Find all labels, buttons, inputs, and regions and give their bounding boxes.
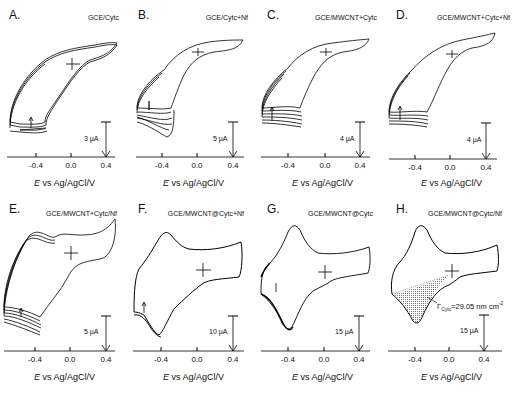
scale-bar-label: 5 µA	[213, 135, 228, 142]
tick-label: 0.4	[478, 355, 489, 364]
scale-bar-label: 4 µA	[467, 136, 482, 143]
tick-label: 0.4	[100, 355, 111, 364]
x-axis-label: E vs Ag/AgCl/V	[129, 372, 258, 382]
tick-label: -0.4	[281, 161, 295, 170]
tick-label: 0.0	[191, 161, 202, 170]
x-axis-label: E vs Ag/AgCl/V	[129, 178, 258, 188]
tick-label: -0.4	[408, 355, 422, 364]
x-axis-label: E vs Ag/AgCl/V	[0, 372, 129, 382]
tick-label: 0.0	[64, 355, 75, 364]
tick-label: 0.0	[65, 161, 76, 170]
scale-bar-label: 5 µA	[84, 328, 99, 335]
tick-label: -0.4	[155, 161, 169, 170]
tick-label: -0.4	[29, 161, 43, 170]
tick-label: 0.4	[227, 161, 238, 170]
panel-f: F. GCE/MWCNT@Cytc+Nf 10 µA -0.4 0.0 0.4 …	[129, 197, 258, 394]
cv-plot	[258, 197, 387, 394]
panel-d: D. GCE/MWCNT+Cytc+Nf 4 µA -0.4 0.0 0.4 E…	[387, 0, 516, 197]
cv-plot	[387, 197, 516, 394]
tick-label: 0.0	[319, 161, 330, 170]
panel-g: G. GCE/MWCNT@Cytc 15 µA -0.4 0.0 0.4 E v…	[258, 197, 387, 394]
scale-bar-label: 3 µA	[84, 135, 99, 142]
tick-label: 0.4	[353, 355, 364, 364]
scale-bar-label: 15 µA	[460, 327, 478, 334]
tick-label: 0.4	[227, 355, 238, 364]
tick-label: 0.0	[444, 163, 455, 172]
tick-label: 0.0	[443, 355, 454, 364]
tick-label: 0.0	[191, 355, 202, 364]
tick-label: -0.4	[408, 163, 422, 172]
tick-label: 0.4	[100, 161, 111, 170]
tick-label: 0.4	[354, 161, 365, 170]
x-axis-label: E vs Ag/AgCl/V	[0, 178, 129, 188]
panel-c: C. GCE/MWCNT+Cytc 4 µA -0.4 0.0 0.4 E vs…	[258, 0, 387, 197]
surface-coverage-annotation: ΓCytc=29.05 nm cm-2	[437, 300, 503, 312]
x-axis-label: E vs Ag/AgCl/V	[258, 178, 387, 188]
x-axis-label: E vs Ag/AgCl/V	[387, 372, 516, 382]
tick-label: 0.4	[480, 163, 491, 172]
tick-label: -0.4	[28, 355, 42, 364]
cv-plot	[0, 197, 129, 394]
cv-plot	[129, 197, 258, 394]
panel-h: H. GCE/MWCNT@Cytc/Nf ΓCytc=29.05 nm cm-2…	[387, 197, 516, 394]
tick-label: -0.4	[154, 355, 168, 364]
panel-a: A. GCE/Cytc 3 µA -0.4 0.0 0.4 E vs Ag/Ag…	[0, 0, 129, 197]
x-axis-label: E vs Ag/AgCl/V	[387, 178, 516, 188]
panel-e: E. GCE/MWCNT+Cytc/Nf 5 µA -0.4 0.0 0.4 E…	[0, 197, 129, 394]
tick-label: 0.0	[318, 355, 329, 364]
tick-label: -0.4	[281, 355, 295, 364]
scale-bar-label: 15 µA	[335, 328, 353, 335]
scale-bar-label: 10 µA	[209, 328, 227, 335]
x-axis-label: E vs Ag/AgCl/V	[258, 372, 387, 382]
scale-bar-label: 4 µA	[340, 135, 355, 142]
panel-b: B. GCE/Cytc+Nf 5 µA -0.4 0.0 0.4 E vs Ag…	[129, 0, 258, 197]
shaded-peak-area	[392, 275, 449, 322]
